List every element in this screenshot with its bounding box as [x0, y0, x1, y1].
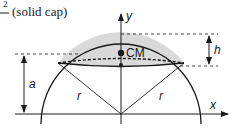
base-center-point: [119, 63, 123, 67]
y-axis-label: y: [125, 9, 133, 23]
caption: 2 (solid cap): [0, 0, 67, 19]
caption-text: (solid cap): [12, 4, 67, 19]
x-axis-label: x: [209, 98, 217, 112]
a-label: a: [29, 77, 36, 91]
radius-left: [58, 63, 121, 114]
r-left-label: r: [77, 89, 82, 103]
h-label: h: [214, 43, 221, 57]
cm-label: CM: [126, 46, 145, 60]
solid-cap-diagram: 2 (solid cap) y x: [0, 0, 242, 137]
r-right-label: r: [159, 89, 164, 103]
radius-right: [121, 63, 184, 114]
caption-superscript: 2: [3, 0, 8, 9]
cm-point: [118, 50, 124, 56]
